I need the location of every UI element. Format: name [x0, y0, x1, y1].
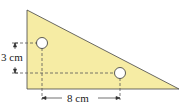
vertical-dimension-label: 3 cm [1, 51, 23, 63]
horizontal-dimension-label: 8 cm [67, 92, 89, 104]
upper-hole [37, 38, 48, 49]
triangle-diagram: 3 cm 8 cm [0, 0, 180, 104]
lower-hole [115, 68, 126, 79]
triangle-plate [27, 10, 179, 89]
